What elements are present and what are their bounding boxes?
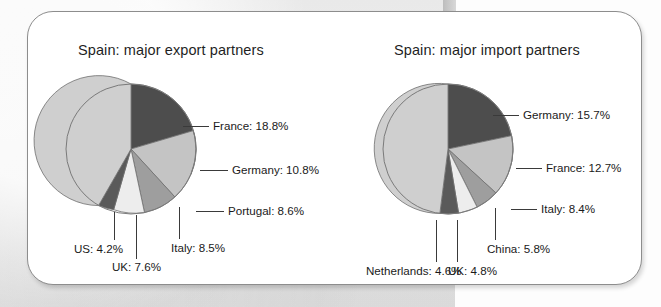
leader-line-china <box>495 208 496 240</box>
import-chart-title: Spain: major import partners <box>394 42 580 58</box>
figure-card: Spain: major export partners <box>27 11 642 285</box>
label-france: France: 18.8% <box>213 119 288 132</box>
label-germany: Germany: 15.7% <box>523 108 610 121</box>
leader-line-italy <box>511 209 537 210</box>
import-pie-svg <box>383 74 533 224</box>
leader-line-uk <box>136 215 137 259</box>
label-us: US: 4.2% <box>74 242 123 255</box>
export-pie-svg <box>66 74 216 224</box>
import-pie <box>383 74 533 224</box>
label-uk: UK: 7.6% <box>112 260 161 273</box>
leader-line-uk <box>457 220 458 262</box>
leader-line-italy <box>179 207 180 239</box>
leader-line-us <box>114 212 115 240</box>
leader-line-germany <box>200 170 228 171</box>
import-chart-panel: Spain: major import partners G <box>338 12 641 284</box>
export-chart-title: Spain: major export partners <box>78 42 264 58</box>
label-portugal: Portugal: 8.6% <box>228 204 304 217</box>
pie-slice-other[interactable] <box>374 83 448 213</box>
label-italy: Italy: 8.5% <box>171 241 225 254</box>
leader-line-netherlands <box>436 220 437 262</box>
label-germany: Germany: 10.8% <box>232 163 319 176</box>
label-netherlands: Netherlands: 4.6% <box>366 264 461 277</box>
label-china: China: 5.8% <box>487 242 550 255</box>
leader-line-france <box>516 168 542 169</box>
leader-line-france <box>183 126 209 127</box>
leader-line-germany <box>493 115 519 116</box>
label-italy: Italy: 8.4% <box>541 202 595 215</box>
export-pie <box>66 74 216 224</box>
label-france: France: 12.7% <box>546 161 621 174</box>
export-chart-panel: Spain: major export partners <box>28 12 338 284</box>
leader-line-portugal <box>196 211 224 212</box>
